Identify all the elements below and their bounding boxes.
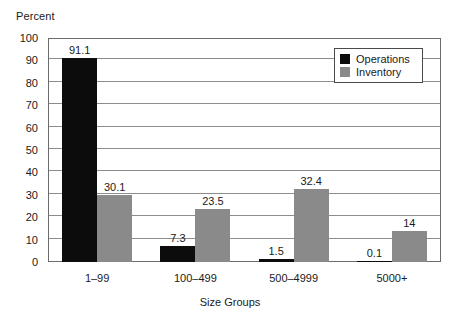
gridline bbox=[49, 193, 440, 194]
y-axis-tick-label: 30 bbox=[4, 189, 38, 201]
gridline bbox=[49, 126, 440, 127]
gridline bbox=[49, 238, 440, 239]
gridline bbox=[49, 148, 440, 149]
legend: Operations Inventory bbox=[334, 48, 423, 83]
legend-label-operations: Operations bbox=[356, 53, 410, 65]
y-axis-tick-label: 0 bbox=[4, 256, 38, 268]
y-axis-title: Percent bbox=[16, 10, 55, 22]
y-axis-tick-label: 60 bbox=[4, 122, 38, 134]
x-axis-tick-label: 1–99 bbox=[48, 272, 146, 284]
y-axis-tick-label: 40 bbox=[4, 166, 38, 178]
x-axis-tick-label: 500–4999 bbox=[245, 272, 343, 284]
x-axis-title: Size Groups bbox=[0, 296, 460, 308]
legend-label-inventory: Inventory bbox=[356, 66, 401, 78]
x-axis-tick-label: 5000+ bbox=[343, 272, 441, 284]
bar-chart: Percent 0102030405060708090100 91.130.17… bbox=[0, 0, 460, 322]
y-axis-tick-label: 90 bbox=[4, 54, 38, 66]
y-axis-tick-label: 10 bbox=[4, 234, 38, 246]
y-axis-tick-label: 80 bbox=[4, 77, 38, 89]
y-axis-tick-label: 100 bbox=[4, 32, 38, 44]
y-axis-tick-label: 70 bbox=[4, 99, 38, 111]
legend-item-operations[interactable]: Operations bbox=[340, 52, 417, 65]
gridline bbox=[49, 215, 440, 216]
gridline bbox=[49, 103, 440, 104]
legend-swatch-operations-icon bbox=[340, 54, 350, 64]
y-axis-tick-label: 20 bbox=[4, 211, 38, 223]
legend-swatch-inventory-icon bbox=[340, 67, 350, 77]
gridline bbox=[49, 170, 440, 171]
legend-item-inventory[interactable]: Inventory bbox=[340, 65, 417, 78]
y-axis-tick-label: 50 bbox=[4, 144, 38, 156]
x-axis-tick-label: 100–499 bbox=[146, 272, 244, 284]
